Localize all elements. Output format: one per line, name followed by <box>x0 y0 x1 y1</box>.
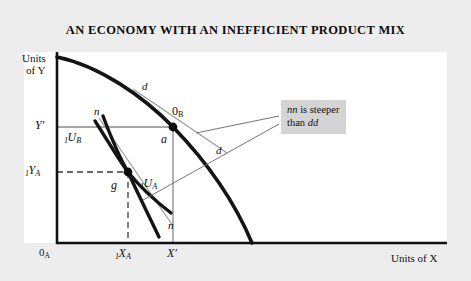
indifference-b-main: U <box>68 130 77 144</box>
point-label-g: g <box>111 178 117 193</box>
callout-line-1: nn is steeper <box>287 103 340 116</box>
tick-label-x-a: 1XA <box>115 246 131 261</box>
nn-label-upper: n <box>94 105 100 117</box>
tick-label-x-a-prefix: 1 <box>115 252 119 261</box>
indifference-b-prefix: 1 <box>64 136 68 145</box>
callout-dd-italic: dd <box>308 117 319 128</box>
indifference-b-subscript: B <box>76 136 81 145</box>
point-marker-g <box>124 168 133 177</box>
point-label-a: a <box>161 132 167 147</box>
tick-label-y-a: 1YA <box>25 163 40 178</box>
dd-label-upper: d <box>142 80 148 92</box>
callout-line-1-rest: is steeper <box>298 104 340 115</box>
tick-label-x-a-subscript: A <box>126 252 131 261</box>
callout-annotation: nn is steeper than dd <box>281 100 346 134</box>
point-label-0b: 0B <box>172 104 183 119</box>
callout-nn-italic: nn <box>287 104 298 115</box>
tick-label-y-prime: Y′ <box>35 118 44 133</box>
indifference-a-main: U <box>144 176 153 190</box>
origin-label-subscript: A <box>45 251 50 260</box>
dd-label-lower: d <box>216 144 222 156</box>
callout-line-2-rest: than <box>287 117 308 128</box>
point-marker-0b <box>169 123 178 132</box>
indifference-curve-b-label: 1UB <box>64 130 81 145</box>
origin-label-a: 0A <box>39 246 50 258</box>
tick-label-x-a-main: X <box>119 246 126 260</box>
y-axis-title-line1: Units <box>22 52 46 64</box>
indifference-a-subscript: A <box>152 182 157 191</box>
callout-line-2: than dd <box>287 116 340 129</box>
x-axis-title: Units of X <box>391 252 437 264</box>
tick-label-y-a-prefix: 1 <box>25 169 29 178</box>
y-axis-title-line2: of Y <box>26 64 45 76</box>
tick-label-y-a-subscript: A <box>35 169 40 178</box>
indifference-curve-a-label: 1UA <box>140 176 157 191</box>
indifference-a-prefix: 1 <box>140 182 144 191</box>
nn-label-lower: n <box>168 219 174 231</box>
origin-label-text: 0 <box>39 246 45 258</box>
dd-price-line <box>133 89 227 153</box>
economics-figure: AN ECONOMY WITH AN INEFFICIENT PRODUCT M… <box>0 0 471 281</box>
point-label-0b-subscript: B <box>178 110 183 119</box>
tick-label-x-prime: X′ <box>167 246 177 261</box>
